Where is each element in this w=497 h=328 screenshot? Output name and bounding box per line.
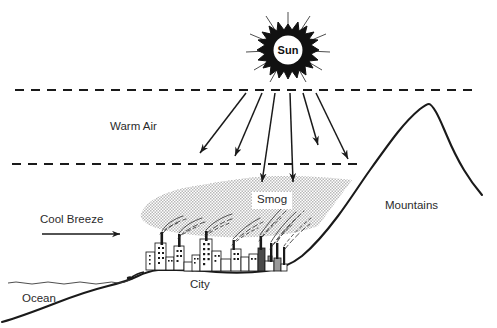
mountains-label: Mountains <box>385 200 438 212</box>
inversion-lines <box>12 90 478 164</box>
ocean-label: Ocean <box>22 293 56 305</box>
sun-ray-5 <box>303 93 318 145</box>
sun-ray-6 <box>316 93 348 159</box>
cool-breeze-label: Cool Breeze <box>40 214 103 226</box>
sun-ray-1 <box>200 93 246 153</box>
sun-rays <box>200 93 348 182</box>
smog-cloud <box>141 173 352 237</box>
smog-diagram: Sun Warm Air Smog Mountains Cool Breeze … <box>0 0 497 328</box>
smog-label: Smog <box>252 192 292 209</box>
warm-air-label: Warm Air <box>110 121 157 133</box>
sun-ray-4 <box>290 93 293 182</box>
ocean-surface <box>8 280 130 284</box>
city-label: City <box>190 279 210 291</box>
sun-ray-3 <box>262 93 275 182</box>
city-skyline <box>146 231 287 271</box>
diagram-canvas <box>0 0 497 328</box>
sun-label: Sun <box>268 44 308 56</box>
